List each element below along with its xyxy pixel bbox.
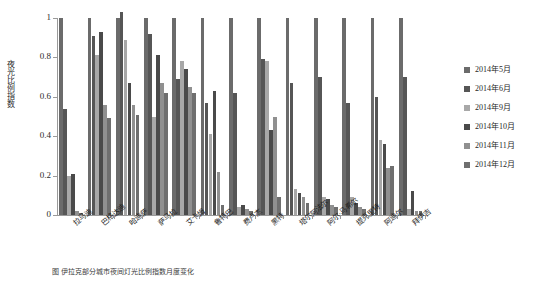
legend-item[interactable]: 2014年9月 bbox=[464, 98, 539, 117]
x-axis-tick bbox=[312, 215, 313, 219]
y-axis-tick bbox=[53, 136, 57, 137]
bar-group bbox=[88, 18, 112, 215]
bar bbox=[403, 77, 407, 215]
bar bbox=[192, 93, 196, 215]
legend-item[interactable]: 2014年11月 bbox=[464, 136, 539, 155]
legend-item[interactable]: 2014年12月 bbox=[464, 155, 539, 174]
legend-swatch-icon bbox=[464, 67, 470, 73]
legend-swatch-icon bbox=[464, 162, 470, 168]
x-axis-tick bbox=[425, 215, 426, 219]
x-axis-tick bbox=[199, 215, 200, 219]
y-axis-tick bbox=[53, 18, 57, 19]
legend-label: 2014年9月 bbox=[475, 103, 511, 112]
bar bbox=[107, 118, 111, 215]
legend-item[interactable]: 2014年10月 bbox=[464, 117, 539, 136]
y-axis-tick-label: 1 bbox=[5, 13, 51, 22]
x-axis-tick bbox=[397, 215, 398, 219]
legend-swatch-icon bbox=[464, 105, 470, 111]
legend-item[interactable]: 2014年5月 bbox=[464, 60, 539, 79]
bar bbox=[71, 174, 75, 215]
bar bbox=[136, 115, 140, 215]
legend-item[interactable]: 2014年6月 bbox=[464, 79, 539, 98]
y-axis-tick-label: 0.6 bbox=[5, 92, 51, 101]
x-axis-tick bbox=[114, 215, 115, 219]
x-axis-tick bbox=[255, 215, 256, 219]
bar-group bbox=[116, 18, 140, 215]
x-axis-tick bbox=[170, 215, 171, 219]
legend-label: 2014年10月 bbox=[475, 122, 515, 131]
x-axis-tick bbox=[227, 215, 228, 219]
bar-group bbox=[314, 18, 338, 215]
bar-group bbox=[201, 18, 225, 215]
x-axis-tick bbox=[85, 215, 86, 219]
x-axis-tick bbox=[283, 215, 284, 219]
plot-area bbox=[57, 18, 425, 215]
y-axis-tick bbox=[53, 215, 57, 216]
y-axis-tick-label: 0 bbox=[5, 210, 51, 219]
bar-chart-figure: 夜光比例指数 00.20.40.60.81 拉马迪巴格达迪哈迪萨萨马拉艾卡姆鲁特… bbox=[0, 0, 539, 284]
x-axis-tick bbox=[340, 215, 341, 219]
bar-group bbox=[229, 18, 253, 215]
bar bbox=[318, 77, 322, 215]
legend-label: 2014年6月 bbox=[475, 84, 511, 93]
bar-group bbox=[257, 18, 281, 215]
y-axis-tick-labels: 00.20.40.60.81 bbox=[0, 0, 51, 215]
legend-swatch-icon bbox=[464, 143, 470, 149]
bar bbox=[390, 166, 394, 215]
x-axis-tick bbox=[142, 215, 143, 219]
y-axis-tick bbox=[53, 57, 57, 58]
y-axis-tick bbox=[53, 176, 57, 177]
legend-label: 2014年11月 bbox=[475, 141, 515, 150]
y-axis-tick-label: 0.8 bbox=[5, 52, 51, 61]
bar-group bbox=[59, 18, 83, 215]
x-axis-tick bbox=[368, 215, 369, 219]
y-axis-tick-label: 0.2 bbox=[5, 171, 51, 180]
bar-group bbox=[144, 18, 168, 215]
bar-group bbox=[172, 18, 196, 215]
legend-swatch-icon bbox=[464, 124, 470, 130]
legend-label: 2014年12月 bbox=[475, 160, 515, 169]
legend-swatch-icon bbox=[464, 86, 470, 92]
bar-group bbox=[371, 18, 395, 215]
chart-legend: 2014年5月2014年6月2014年9月2014年10月2014年11月201… bbox=[464, 60, 539, 174]
y-axis-tick-label: 0.4 bbox=[5, 131, 51, 140]
bar-group bbox=[399, 18, 423, 215]
bar bbox=[233, 93, 237, 215]
bar-group bbox=[286, 18, 310, 215]
legend-label: 2014年5月 bbox=[475, 65, 511, 74]
x-axis-category-labels: 拉马迪巴格达迪哈迪萨萨马拉艾卡姆鲁特巴费卢杰黑特塔尔阿法尔阿尔·马希尔提克里特阿… bbox=[0, 219, 440, 265]
y-axis-tick bbox=[53, 97, 57, 98]
bar bbox=[164, 93, 168, 215]
figure-caption: 图 伊拉克部分城市夜间灯光比例指数月度变化 bbox=[52, 268, 482, 277]
bar-group bbox=[342, 18, 366, 215]
